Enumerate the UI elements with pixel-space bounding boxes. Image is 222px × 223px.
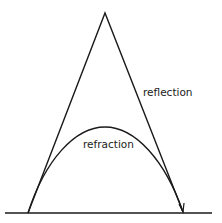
reflection-label: reflection bbox=[143, 87, 193, 98]
reflection-path bbox=[28, 13, 183, 213]
ray-diagram bbox=[0, 0, 222, 223]
refraction-label: refraction bbox=[83, 139, 134, 150]
